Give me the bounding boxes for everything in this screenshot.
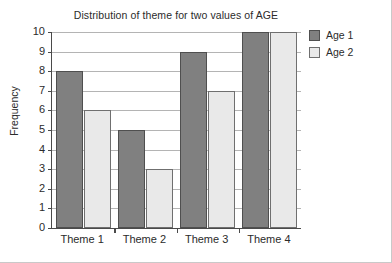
y-tick-label: 7 (5, 85, 45, 96)
bar (118, 130, 145, 228)
y-tick-mark (48, 169, 52, 170)
chart-legend: Age 1Age 2 (309, 27, 353, 61)
y-tick-label: 1 (5, 202, 45, 213)
x-tick-label: Theme 4 (224, 233, 314, 245)
y-tick-label: 10 (5, 26, 45, 37)
y-tick-label: 6 (5, 104, 45, 115)
y-tick-label: 9 (5, 46, 45, 57)
y-tick-mark (48, 52, 52, 53)
legend-item[interactable]: Age 2 (309, 44, 353, 60)
y-tick-mark (48, 110, 52, 111)
bar (56, 71, 83, 228)
plot-area (51, 32, 301, 229)
bar (146, 169, 173, 228)
y-tick-mark (48, 130, 52, 131)
legend-swatch-icon (309, 30, 320, 41)
y-tick-label: 3 (5, 163, 45, 174)
y-tick-label: 5 (5, 124, 45, 135)
y-tick-label: 0 (5, 222, 45, 233)
y-tick-mark (48, 189, 52, 190)
legend-label: Age 1 (326, 29, 353, 41)
y-tick-label: 2 (5, 183, 45, 194)
y-tick-mark (48, 228, 52, 229)
legend-swatch-icon (309, 47, 320, 58)
y-tick-mark (48, 208, 52, 209)
bar (208, 91, 235, 228)
y-tick-mark (48, 91, 52, 92)
legend-label: Age 2 (326, 46, 353, 58)
bar (84, 110, 111, 228)
y-tick-label: 8 (5, 65, 45, 76)
bar (242, 32, 269, 228)
bar (180, 52, 207, 228)
chart-figure: Distribution of theme for two values of … (0, 0, 392, 263)
legend-item[interactable]: Age 1 (309, 27, 353, 43)
y-tick-mark (48, 71, 52, 72)
y-tick-label: 4 (5, 144, 45, 155)
y-tick-mark (48, 150, 52, 151)
chart-title: Distribution of theme for two values of … (51, 9, 301, 21)
y-tick-mark (48, 32, 52, 33)
bar (270, 32, 297, 228)
